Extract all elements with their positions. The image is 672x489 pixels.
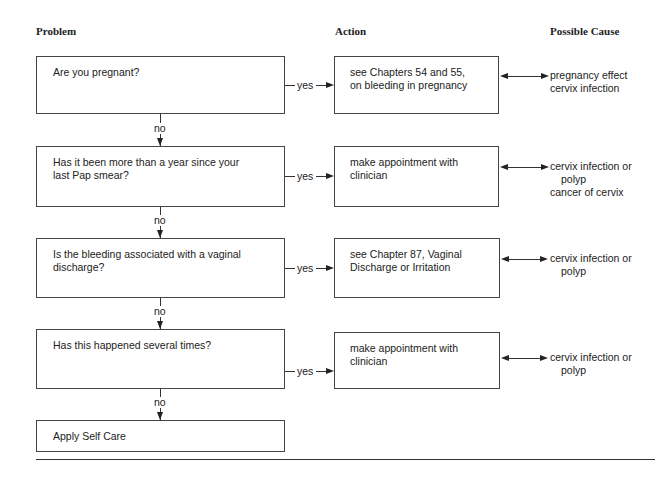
connector-line bbox=[285, 371, 295, 372]
arrow-right-icon bbox=[540, 355, 548, 361]
connector-line bbox=[316, 176, 326, 177]
question-text-line: last Pap smear? bbox=[53, 169, 268, 182]
cause-text: polyp bbox=[550, 173, 632, 186]
arrow-right-icon bbox=[540, 256, 548, 262]
connector-line bbox=[285, 176, 295, 177]
possible-cause-row-4: cervix infection or polyp bbox=[550, 351, 632, 377]
possible-cause-row-1: pregnancy effect cervix infection bbox=[550, 69, 627, 95]
cause-text: cervix infection or bbox=[550, 351, 632, 364]
yes-label: yes bbox=[297, 366, 313, 377]
apply-self-care-box: Apply Self Care bbox=[36, 420, 285, 452]
arrow-right-icon bbox=[326, 82, 334, 88]
question-box-pap-smear: Has it been more than a year since your … bbox=[36, 146, 285, 207]
question-text-line: Has it been more than a year since your bbox=[53, 156, 268, 169]
connector-line bbox=[316, 85, 326, 86]
action-text-line: see Chapter 87, Vaginal bbox=[350, 248, 484, 261]
question-text: Has this happened several times? bbox=[53, 339, 268, 352]
connector-line bbox=[285, 85, 295, 86]
cause-text: cervix infection bbox=[550, 82, 627, 95]
cause-text: pregnancy effect bbox=[550, 69, 627, 82]
action-box-appointment-2: make appointment with clinician bbox=[334, 332, 500, 389]
double-arrow-line bbox=[506, 167, 542, 168]
cause-text: cancer of cervix bbox=[550, 186, 632, 199]
question-text-line: discharge? bbox=[53, 261, 268, 274]
action-text-line: make appointment with bbox=[350, 156, 483, 169]
cause-text: polyp bbox=[550, 364, 632, 377]
question-text: Are you pregnant? bbox=[53, 66, 268, 79]
arrow-right-icon bbox=[326, 265, 334, 271]
connector-line bbox=[316, 268, 326, 269]
arrow-down-icon bbox=[157, 138, 163, 146]
action-box-appointment: make appointment with clinician bbox=[334, 146, 499, 207]
connector-line bbox=[285, 268, 295, 269]
arrow-down-icon bbox=[157, 230, 163, 238]
no-label: no bbox=[154, 397, 166, 408]
no-label: no bbox=[154, 215, 166, 226]
arrow-right-icon bbox=[541, 164, 549, 170]
action-box-chapter-87: see Chapter 87, Vaginal Discharge or Irr… bbox=[334, 238, 500, 298]
action-text-line: see Chapters 54 and 55, bbox=[350, 66, 483, 79]
question-text-line: Is the bleeding associated with a vagina… bbox=[53, 248, 268, 261]
action-text-line: on bleeding in pregnancy bbox=[350, 79, 483, 92]
header-problem: Problem bbox=[36, 25, 76, 37]
yes-label: yes bbox=[297, 263, 313, 274]
arrow-right-icon bbox=[326, 173, 334, 179]
question-box-several-times: Has this happened several times? bbox=[36, 329, 285, 389]
action-box-chapters-54-55: see Chapters 54 and 55, on bleeding in p… bbox=[334, 56, 499, 114]
action-text-line: make appointment with bbox=[350, 342, 484, 355]
action-text-line: Discharge or Irritation bbox=[350, 261, 484, 274]
action-text-line: clinician bbox=[350, 169, 483, 182]
footer-divider bbox=[36, 459, 655, 460]
action-text-line: clinician bbox=[350, 355, 484, 368]
double-arrow-line bbox=[507, 259, 541, 260]
no-label: no bbox=[154, 306, 166, 317]
possible-cause-row-2: cervix infection or polyp cancer of cerv… bbox=[550, 160, 632, 199]
arrow-right-icon bbox=[541, 73, 549, 79]
no-label: no bbox=[154, 123, 166, 134]
yes-label: yes bbox=[297, 80, 313, 91]
question-box-pregnant: Are you pregnant? bbox=[36, 56, 285, 114]
arrow-down-icon bbox=[157, 321, 163, 329]
double-arrow-line bbox=[507, 358, 541, 359]
cause-text: cervix infection or bbox=[550, 252, 632, 265]
connector-line bbox=[316, 371, 326, 372]
header-possible-cause: Possible Cause bbox=[550, 25, 619, 37]
arrow-down-icon bbox=[157, 412, 163, 420]
yes-label: yes bbox=[297, 171, 313, 182]
question-box-vaginal-discharge: Is the bleeding associated with a vagina… bbox=[36, 238, 285, 298]
arrow-right-icon bbox=[326, 368, 334, 374]
final-text: Apply Self Care bbox=[53, 430, 268, 443]
double-arrow-line bbox=[506, 76, 542, 77]
header-action: Action bbox=[335, 25, 366, 37]
possible-cause-row-3: cervix infection or polyp bbox=[550, 252, 632, 278]
cause-text: polyp bbox=[550, 265, 632, 278]
cause-text: cervix infection or bbox=[550, 160, 632, 173]
